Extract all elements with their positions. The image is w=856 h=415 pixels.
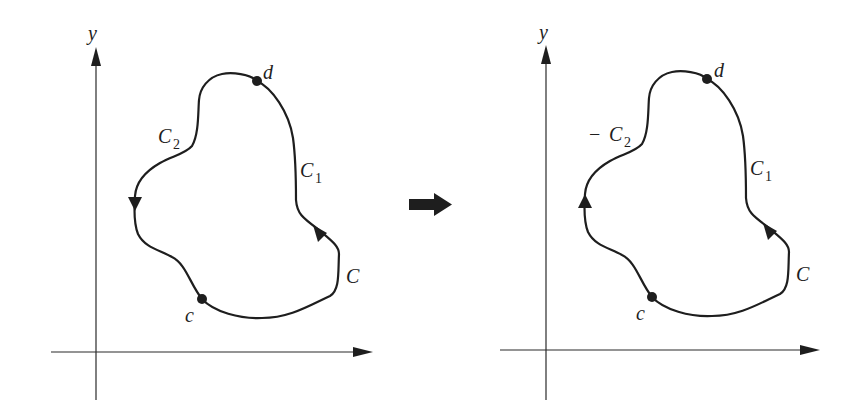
left-c1-label: C 1 xyxy=(300,159,322,186)
left-c2-label-sub: 2 xyxy=(173,137,180,152)
right-point-d xyxy=(702,74,712,84)
right-panel: y d c C 1 − C 2 C xyxy=(500,21,820,400)
right-c-direction-arrow-icon xyxy=(763,223,777,240)
right-c2-label-sub: 2 xyxy=(624,135,631,150)
right-c1-label-sub: 1 xyxy=(765,169,772,184)
right-c1-label-main: C xyxy=(750,157,764,179)
left-y-axis-arrowhead-icon xyxy=(91,47,101,66)
right-c1-label: C 1 xyxy=(750,157,772,184)
left-c1-label-sub: 1 xyxy=(315,171,322,186)
right-x-axis-arrowhead-icon xyxy=(800,345,820,355)
left-c-direction-arrow-icon xyxy=(313,225,327,242)
right-y-axis-label: y xyxy=(537,21,548,44)
right-minus-c2-label: − C 2 xyxy=(589,123,631,150)
right-point-d-label: d xyxy=(714,59,725,81)
right-c2-label-minus: − xyxy=(589,123,600,145)
left-point-d-label: d xyxy=(263,61,274,83)
left-y-axis-label: y xyxy=(86,22,97,45)
left-point-c-label: c xyxy=(185,304,194,326)
right-point-c-label: c xyxy=(636,302,645,324)
right-c2-label-main: C xyxy=(609,123,623,145)
left-panel: y d c C 1 C 2 C xyxy=(51,22,373,400)
left-c2-label: C 2 xyxy=(158,125,180,152)
left-c2-direction-arrow-icon xyxy=(128,197,142,211)
left-curve-c-label: C xyxy=(346,265,360,287)
left-point-d xyxy=(252,76,262,86)
right-point-c xyxy=(647,292,657,302)
left-closed-curve-c xyxy=(134,73,339,318)
right-y-axis-arrowhead-icon xyxy=(541,45,551,64)
left-c1-label-main: C xyxy=(300,159,314,181)
left-x-axis-arrowhead-icon xyxy=(353,347,373,357)
transform-arrow-icon xyxy=(409,193,452,216)
right-curve-c-label: C xyxy=(796,263,810,285)
diagram-canvas: y d c C 1 C 2 C y xyxy=(0,0,856,415)
left-c2-label-main: C xyxy=(158,125,172,147)
right-minus-c2-direction-arrow-icon xyxy=(578,194,592,208)
right-closed-curve-c xyxy=(584,71,789,316)
left-point-c xyxy=(197,294,207,304)
